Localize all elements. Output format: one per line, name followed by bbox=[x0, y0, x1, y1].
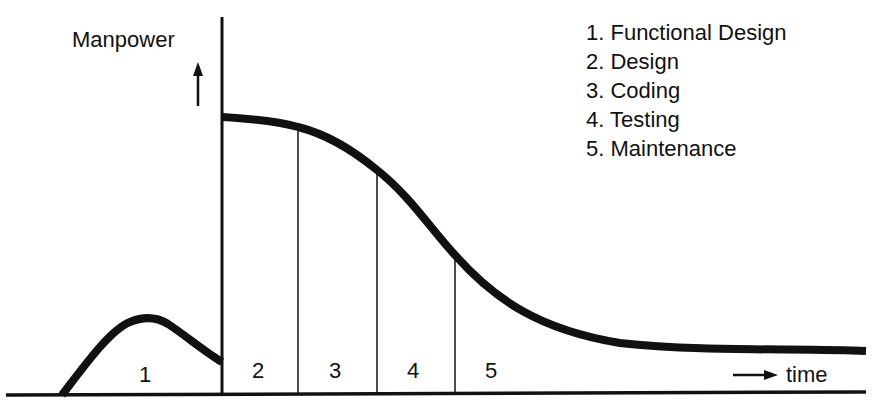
time-axis-line bbox=[6, 392, 866, 395]
right-arrow-icon bbox=[733, 370, 778, 380]
legend-item-maintenance: 5. Maintenance bbox=[586, 136, 736, 161]
time-axis-label: time bbox=[786, 362, 828, 387]
legend-item-functional-design: 1. Functional Design bbox=[586, 20, 787, 45]
legend-item-design: 2. Design bbox=[586, 49, 679, 74]
phase-label-4: 4 bbox=[407, 358, 419, 383]
phase-label-5: 5 bbox=[485, 358, 497, 383]
manpower-axis-label: Manpower bbox=[72, 27, 175, 52]
legend-item-coding: 3. Coding bbox=[586, 78, 680, 103]
manpower-lifecycle-diagram: Manpower 1 2 3 4 5 time 1. Functional De… bbox=[0, 0, 872, 405]
phase-label-3: 3 bbox=[329, 358, 341, 383]
phase-label-1: 1 bbox=[139, 362, 151, 387]
legend-item-testing: 4. Testing bbox=[586, 107, 680, 132]
legend: 1. Functional Design 2. Design 3. Coding… bbox=[586, 20, 787, 161]
up-arrow-icon bbox=[193, 62, 203, 106]
manpower-curve bbox=[222, 117, 866, 351]
phase-label-2: 2 bbox=[252, 358, 264, 383]
